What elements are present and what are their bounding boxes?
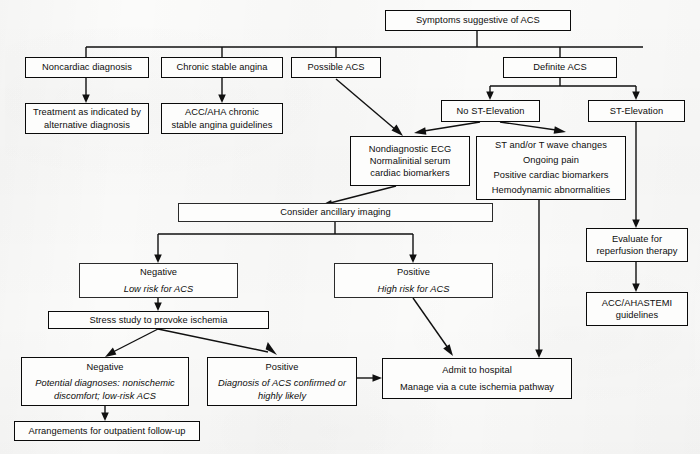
node-label-line1: Negative [140,266,177,278]
arrowhead-nondiagnostic-right [414,127,426,135]
node-label-line1: ACC/AHA chronic [185,106,259,118]
node-stress-study-to-provoke-ischemia[interactable]: Stress study to provoke ischemia [48,311,269,329]
node-label-line1: Positive [397,266,430,278]
node-nondiagnostic-ecg[interactable]: Nondiagnostic ECG Normalinitial serum ca… [350,136,470,186]
node-label-line2: Normalinitial serum [370,155,451,167]
node-label: Stress study to provoke ischemia [89,314,227,326]
arrowhead-admit-diagonal [443,344,453,356]
flowchart-page: Symptoms suggestive of ACS Noncardiac di… [0,0,700,454]
node-label-line1: Positive [266,361,299,373]
node-imaging-negative-low-risk[interactable]: Negative Low risk for ACS [79,263,238,298]
node-stress-positive[interactable]: Positive Diagnosis of ACS confirmed or h… [207,357,357,406]
node-label-line1: Evaluate for [612,233,662,245]
node-label-line1: ST and/or T wave changes [495,138,607,153]
arrowhead-admit-left [373,374,383,382]
node-st-t-wave-changes[interactable]: ST and/or T wave changes Ongoing pain Po… [476,136,626,200]
node-label-line2: guidelines [616,309,658,321]
node-label-line2: High risk for ACS [378,283,450,295]
edge-nondiagnostic-imaging [330,186,396,203]
node-label-line1: ACC/AHASTEMI [602,297,672,309]
node-imaging-positive-high-risk[interactable]: Positive High risk for ACS [334,263,493,298]
node-label: Arrangements for outpatient follow-up [29,425,186,437]
node-label-line3: discomfort; low-risk ACS [54,390,156,402]
node-label-line2: Diagnosis of ACS confirmed or [218,377,346,389]
edge-possible-nondiagnostic [336,79,396,130]
arrowhead-accaha [218,95,226,104]
node-label-line3: highly likely [258,390,306,402]
node-label-line1: Treatment as indicated by [33,106,141,118]
edge-nostelev-sttchanges [500,122,556,130]
node-arrangements-outpatient-followup[interactable]: Arrangements for outpatient follow-up [14,421,200,441]
node-possible-acs[interactable]: Possible ACS [291,57,381,78]
node-consider-ancillary-imaging[interactable]: Consider ancillary imaging [178,203,493,222]
arrowhead-treatment [82,95,90,104]
edge-stress-negative [113,329,158,352]
arrowhead-nondiagnostic-left [392,125,404,137]
node-label-line1: Admit to hospital [442,364,512,376]
node-symptoms-suggestive-of-acs[interactable]: Symptoms suggestive of ACS [385,10,571,31]
edge-highrisk-admit [413,298,448,348]
node-label-line2: Manage via a cute ischemia pathway [400,381,554,393]
node-label: Symptoms suggestive of ACS [416,14,540,26]
node-definite-acs[interactable]: Definite ACS [503,57,617,78]
arrowhead-evaluate [632,220,640,229]
node-treatment-as-indicated[interactable]: Treatment as indicated by alternative di… [25,103,149,134]
node-no-st-elevation[interactable]: No ST-Elevation [441,100,540,122]
arrowhead-stress [154,303,162,312]
arrowhead-outpatient [101,413,109,422]
edge-stress-positive [158,329,268,352]
arrowhead-sttchanges [554,126,566,134]
node-label-line2: reperfusion therapy [596,245,677,257]
node-stress-negative[interactable]: Negative Potential diagnoses: nonischemi… [21,357,189,406]
node-label-line2: Potential diagnoses: nonischemic [35,377,175,389]
node-label: No ST-Elevation [457,105,525,117]
node-label-line2: stable angina guidelines [172,119,273,131]
node-label-line2: alternative diagnosis [44,119,130,131]
node-label-line2: Ongoing pain [523,153,579,168]
node-label: Possible ACS [308,61,365,73]
node-label-line1: Negative [86,361,123,373]
node-label: ST-Elevation [610,105,663,117]
arrowhead-stress-negative [105,348,116,357]
node-label: Consider ancillary imaging [280,206,390,218]
node-acc-aha-chronic-stable-angina-guidelines[interactable]: ACC/AHA chronic stable angina guidelines [161,103,283,134]
node-acc-aha-stemi-guidelines[interactable]: ACC/AHASTEMI guidelines [586,292,688,326]
node-label: Chronic stable angina [177,61,268,73]
node-evaluate-for-reperfusion-therapy[interactable]: Evaluate for reperfusion therapy [586,228,688,262]
arrowhead-imaging-positive [409,255,417,264]
node-label-line2: Low risk for ACS [124,283,194,295]
node-label-line3: Positive cardiac biomarkers [493,168,608,183]
edge-nostelev-nondiagnostic [424,122,480,131]
node-label-line4: Hemodynamic abnormalities [492,183,611,198]
node-admit-to-hospital[interactable]: Admit to hospital Manage via a cute isch… [382,358,572,399]
arrowhead-stress-positive [266,342,277,355]
arrowhead-no-st-elevation [486,92,494,101]
arrowhead-imaging-negative [154,255,162,264]
node-label: Noncardiac diagnosis [42,61,132,73]
arrowhead-st-elevation [632,92,640,101]
node-label-line1: Nondiagnostic ECG [369,143,452,155]
node-st-elevation[interactable]: ST-Elevation [588,100,685,122]
arrowhead-stemi [632,284,640,293]
node-label: Definite ACS [533,61,586,73]
node-label-line3: cardiac biomarkers [370,167,449,179]
arrowhead-admit-vertical [535,350,543,359]
node-noncardiac-diagnosis[interactable]: Noncardiac diagnosis [25,57,149,78]
node-chronic-stable-angina[interactable]: Chronic stable angina [161,57,283,78]
